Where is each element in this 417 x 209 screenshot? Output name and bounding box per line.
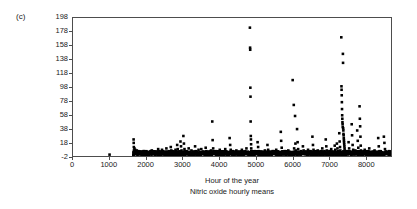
data-point (292, 104, 295, 107)
y-tick-label: 18 (46, 139, 68, 147)
data-point (384, 148, 387, 151)
data-point (132, 138, 135, 141)
data-point (183, 142, 186, 145)
data-point (182, 135, 185, 138)
data-point (204, 146, 207, 149)
data-point (249, 48, 252, 51)
x-tick-mark (256, 156, 257, 160)
data-point (249, 135, 252, 138)
x-tick-mark (219, 156, 220, 160)
data-point (342, 53, 345, 56)
data-point (245, 147, 248, 150)
data-point (338, 140, 341, 143)
data-point (194, 145, 197, 148)
data-point (383, 135, 386, 138)
data-point (351, 134, 354, 137)
y-tick-label: 58 (46, 111, 68, 119)
x-tick-label: 5000 (236, 160, 276, 169)
data-point (280, 140, 283, 143)
data-point (180, 145, 183, 148)
data-point (200, 148, 203, 151)
data-point (294, 115, 297, 118)
data-point (340, 88, 343, 91)
data-point (296, 141, 299, 144)
data-point (336, 142, 339, 145)
data-point (359, 144, 362, 147)
data-point (250, 143, 253, 146)
data-point (165, 147, 168, 150)
data-point (266, 144, 269, 147)
data-point (250, 147, 253, 150)
data-point (280, 146, 283, 149)
data-point (249, 26, 252, 29)
data-point (169, 146, 172, 149)
data-point (338, 132, 341, 135)
data-point (302, 145, 305, 148)
data-point (342, 129, 345, 132)
data-point (297, 148, 300, 151)
data-point (132, 142, 135, 145)
data-point (250, 138, 253, 141)
data-point (341, 114, 344, 117)
x-tick-mark (182, 156, 183, 160)
figure-panel-c: (c) SO2 concentration/ppb -2183858789811… (0, 0, 417, 209)
y-tick-label: 178 (46, 27, 68, 35)
data-point (351, 144, 354, 147)
data-point (179, 140, 182, 143)
x-tick-label: 8000 (346, 160, 386, 169)
data-point (341, 108, 344, 111)
data-point (359, 135, 362, 138)
data-point (340, 94, 343, 97)
data-point (249, 86, 252, 89)
x-axis-subtitle: Nitric oxide hourly means (72, 187, 392, 197)
y-tick-label: 158 (46, 41, 68, 49)
data-point (291, 79, 294, 82)
data-point (280, 131, 283, 134)
x-tick-label: 7000 (309, 160, 349, 169)
data-point (348, 147, 351, 150)
y-tick-label: 98 (46, 83, 68, 91)
data-point (211, 120, 214, 123)
y-tick-label: 198 (46, 13, 68, 21)
data-point (324, 138, 327, 141)
data-point (377, 137, 380, 140)
y-tick-label: 138 (46, 55, 68, 63)
data-point (187, 147, 190, 150)
data-point (356, 140, 359, 143)
data-point (296, 128, 299, 131)
plot-area (72, 17, 392, 157)
data-point (368, 147, 371, 150)
data-point (359, 117, 362, 120)
data-point (228, 137, 231, 140)
data-point (224, 148, 227, 151)
x-tick-label: 0 (52, 160, 92, 169)
data-point (325, 145, 328, 148)
y-tick-label: 78 (46, 97, 68, 105)
data-point (341, 101, 344, 104)
data-point (212, 147, 215, 150)
panel-label: (c) (16, 12, 25, 22)
data-point (211, 139, 214, 142)
data-point (311, 135, 314, 138)
x-tick-label: 6000 (273, 160, 313, 169)
x-tick-label: 4000 (199, 160, 239, 169)
y-tick-label: 118 (46, 69, 68, 77)
x-tick-mark (293, 156, 294, 160)
data-point (249, 95, 252, 98)
data-point (339, 146, 342, 149)
data-point (389, 154, 391, 156)
data-point (312, 144, 315, 147)
y-tick-label: 38 (46, 125, 68, 133)
data-point (340, 36, 343, 39)
data-point (257, 146, 260, 149)
data-point (256, 141, 259, 144)
data-point (350, 123, 353, 126)
x-tick-mark (366, 156, 367, 160)
data-point (321, 147, 324, 150)
data-point (229, 144, 232, 147)
data-point (358, 105, 361, 108)
data-point (359, 125, 362, 128)
scatter-series (73, 18, 391, 156)
x-tick-mark (109, 156, 110, 160)
data-point (342, 62, 345, 65)
